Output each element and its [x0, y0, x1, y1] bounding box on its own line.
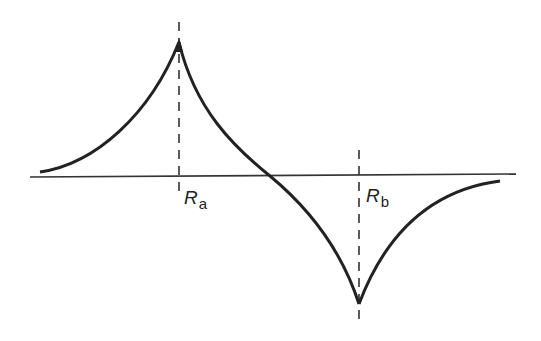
label-ra: Ra: [184, 188, 206, 207]
label-rb-sub: b: [381, 193, 389, 210]
curve-left-branch: [40, 42, 179, 172]
label-rb-main: R: [366, 185, 380, 206]
label-ra-sub: a: [199, 195, 207, 212]
label-ra-main: R: [184, 187, 198, 208]
diagram-canvas: [0, 0, 541, 341]
horizontal-axis: [30, 174, 516, 177]
label-rb: Rb: [366, 186, 388, 205]
curve-middle-branch: [179, 42, 359, 304]
